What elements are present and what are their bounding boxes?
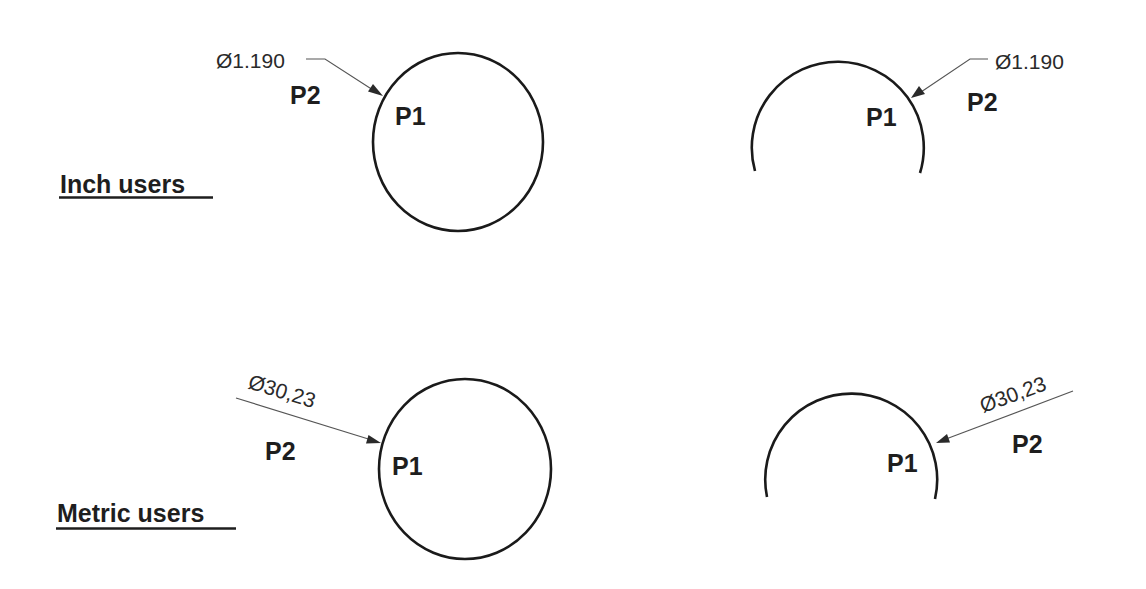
leader-arrowhead-icon (368, 84, 383, 96)
point-p2-label: P2 (1012, 430, 1043, 458)
diameter-dimension-text: Ø1.190 (995, 50, 1064, 73)
point-p1-label: P1 (866, 103, 897, 131)
diameter-dimension-text: Ø30,23 (246, 370, 319, 412)
metric-users-section: Metric users Ø30,23 P2 P1 Ø30,23 P2 P1 (56, 370, 1073, 559)
leader-arrowhead-icon (366, 435, 381, 444)
inch-users-section: Inch users Ø1.190 P2 P1 Ø1.190 P2 P1 (59, 49, 1064, 231)
inch-arc-example: Ø1.190 P2 P1 (752, 50, 1064, 173)
point-p2-label: P2 (967, 88, 998, 116)
arc[interactable] (765, 394, 937, 499)
diameter-dimension-text: Ø1.190 (216, 49, 285, 72)
point-p1-label: P1 (887, 449, 918, 477)
drawing-canvas: Inch users Ø1.190 P2 P1 Ø1.190 P2 P1 Met… (0, 0, 1146, 589)
metric-circle-example: Ø30,23 P2 P1 (236, 370, 551, 559)
full-circle[interactable] (373, 53, 543, 231)
point-p2-label: P2 (265, 437, 296, 465)
metric-users-label: Metric users (57, 499, 204, 527)
inch-users-label: Inch users (60, 170, 185, 198)
leader-arrowhead-icon (911, 86, 925, 98)
metric-arc-example: Ø30,23 P2 P1 (765, 372, 1073, 499)
inch-circle-example: Ø1.190 P2 P1 (216, 49, 543, 231)
arc[interactable] (752, 62, 924, 173)
diameter-dimension-text: Ø30,23 (977, 372, 1050, 417)
point-p1-label: P1 (395, 102, 426, 130)
point-p2-label: P2 (290, 81, 321, 109)
leader-arrowhead-icon (936, 434, 950, 443)
point-p1-label: P1 (392, 452, 423, 480)
